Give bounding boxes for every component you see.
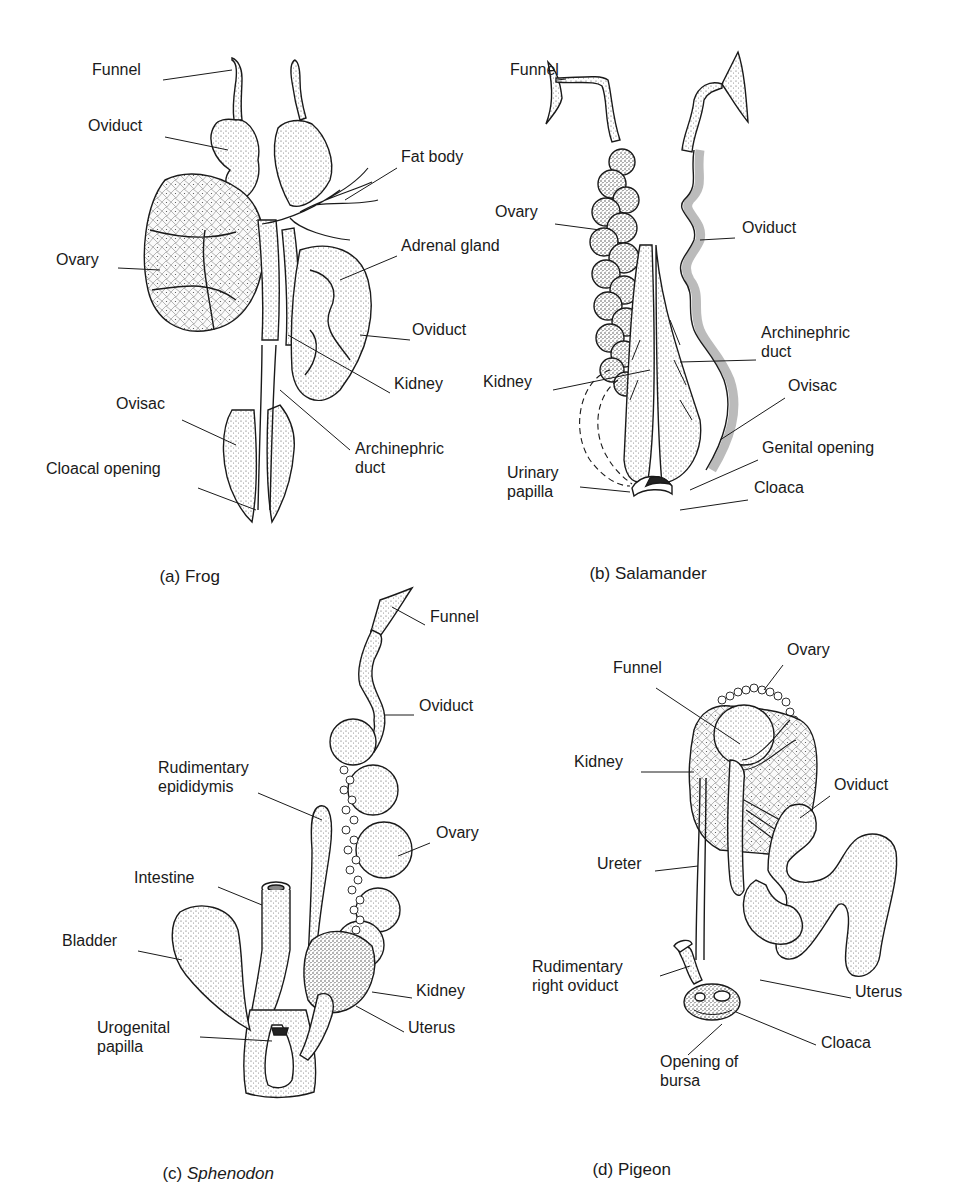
caption-salamander-name: Salamander: [615, 564, 707, 583]
sphenodon-label-rudimentary-epididymis: Rudimentary epididymis: [158, 758, 249, 796]
pigeon-label-ovary: Ovary: [787, 640, 830, 659]
pigeon-label-kidney: Kidney: [574, 752, 623, 771]
pigeon-label-opening-of-bursa: Opening of bursa: [660, 1052, 738, 1090]
frog-label-oviduct-lower: Oviduct: [412, 320, 466, 339]
salamander-label-archinephric-duct: Archinephric duct: [761, 323, 850, 361]
caption-sphenodon-name: Sphenodon: [187, 1164, 274, 1183]
frog-label-archinephric-duct: Archinephric duct: [355, 439, 444, 477]
salamander-label-kidney: Kidney: [483, 372, 532, 391]
salamander-label-funnel: Funnel: [510, 60, 559, 79]
caption-pigeon: (d) Pigeon: [583, 1140, 671, 1180]
salamander-label-genital-opening: Genital opening: [762, 438, 874, 457]
pigeon-label-oviduct: Oviduct: [834, 775, 888, 794]
salamander-panel: [546, 52, 748, 496]
pigeon-label-uterus: Uterus: [855, 982, 902, 1001]
frog-label-oviduct-upper: Oviduct: [88, 116, 142, 135]
sphenodon-label-kidney: Kidney: [416, 981, 465, 1000]
caption-frog-name: Frog: [185, 567, 220, 586]
caption-sphenodon-prefix: (c): [162, 1164, 187, 1183]
frog-label-adrenal-gland: Adrenal gland: [401, 236, 500, 255]
sphenodon-panel: [172, 588, 412, 1097]
caption-pigeon-name: Pigeon: [618, 1160, 671, 1179]
sphenodon-label-intestine: Intestine: [134, 868, 194, 887]
sphenodon-label-oviduct: Oviduct: [419, 696, 473, 715]
sphenodon-label-urogenital-papilla: Urogenital papilla: [97, 1018, 170, 1056]
frog-panel: [144, 58, 378, 522]
caption-frog: (a) Frog: [150, 547, 220, 587]
caption-salamander-prefix: (b): [589, 564, 615, 583]
pigeon-label-cloaca: Cloaca: [821, 1033, 871, 1052]
pigeon-panel: [674, 684, 897, 1020]
frog-label-cloacal-opening: Cloacal opening: [46, 459, 161, 478]
frog-label-ovary: Ovary: [56, 250, 99, 269]
sphenodon-label-funnel: Funnel: [430, 607, 479, 626]
frog-label-funnel: Funnel: [92, 60, 141, 79]
salamander-label-urinary-papilla: Urinary papilla: [507, 463, 559, 501]
sphenodon-label-ovary: Ovary: [436, 823, 479, 842]
pigeon-label-ureter: Ureter: [597, 854, 641, 873]
frog-label-fat-body: Fat body: [401, 147, 463, 166]
caption-frog-prefix: (a): [159, 567, 185, 586]
salamander-label-ovisac: Ovisac: [788, 376, 837, 395]
frog-label-kidney: Kidney: [394, 374, 443, 393]
caption-sphenodon: (c) Sphenodon: [153, 1144, 274, 1184]
sphenodon-label-uterus: Uterus: [408, 1018, 455, 1037]
sphenodon-label-bladder: Bladder: [62, 931, 117, 950]
pigeon-label-rudimentary-right-oviduct: Rudimentary right oviduct: [532, 957, 623, 995]
caption-pigeon-prefix: (d): [592, 1160, 618, 1179]
frog-label-ovisac: Ovisac: [116, 394, 165, 413]
salamander-label-cloaca: Cloaca: [754, 478, 804, 497]
salamander-label-ovary: Ovary: [495, 202, 538, 221]
caption-salamander: (b) Salamander: [580, 544, 707, 584]
salamander-label-oviduct: Oviduct: [742, 218, 796, 237]
pigeon-label-funnel: Funnel: [613, 658, 662, 677]
